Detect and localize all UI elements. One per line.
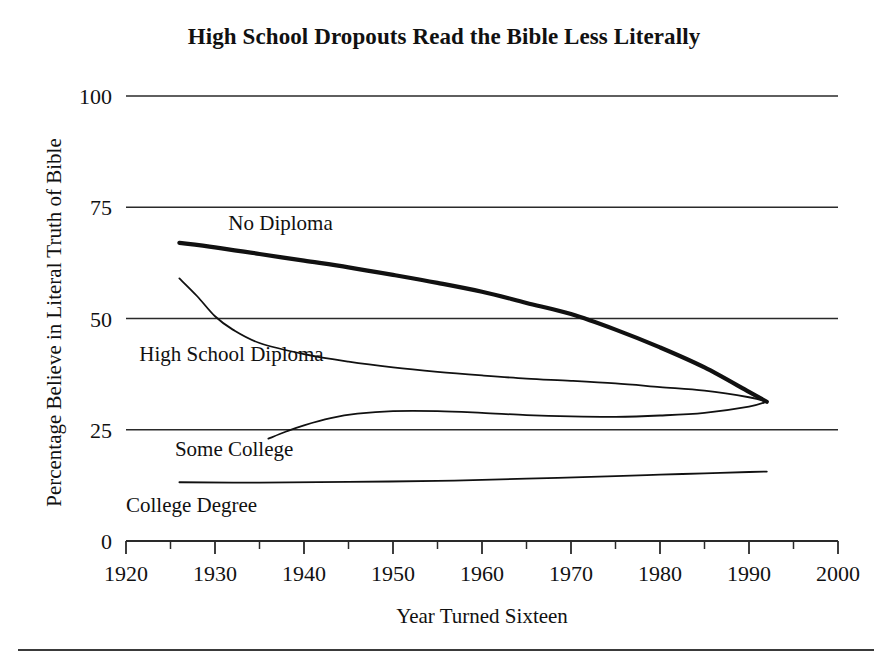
series-label-high-school-diploma: High School Diploma — [139, 342, 324, 366]
y-axis-tick-labels: 0255075100 — [79, 84, 112, 554]
series-line-some-college — [268, 402, 766, 439]
series-label-some-college: Some College — [175, 437, 293, 461]
gridlines — [126, 96, 838, 541]
x-axis-tick-labels: 192019301940195019601970198019902000 — [104, 561, 860, 586]
y-tick-label-50: 50 — [90, 307, 112, 332]
footer-divider — [18, 649, 874, 651]
series-label-college-degree: College Degree — [126, 493, 257, 517]
x-tick-label-1970: 1970 — [549, 561, 593, 586]
chart-plot-area: 0255075100 19201930194019501960197019801… — [0, 0, 888, 669]
x-tick-label-1960: 1960 — [460, 561, 504, 586]
x-tick-label-1990: 1990 — [727, 561, 771, 586]
x-tick-label-1930: 1930 — [193, 561, 237, 586]
x-tick-label-2000: 2000 — [816, 561, 860, 586]
x-axis-ticks — [126, 541, 838, 554]
series-label-no-diploma: No Diploma — [228, 211, 333, 235]
series-annotations: No DiplomaHigh School DiplomaSome Colleg… — [126, 211, 333, 518]
chart-page: High School Dropouts Read the Bible Less… — [0, 0, 888, 669]
series-line-college-degree — [179, 472, 766, 483]
series-line-high-school-diploma — [179, 278, 766, 401]
x-tick-label-1920: 1920 — [104, 561, 148, 586]
y-tick-label-75: 75 — [90, 195, 112, 220]
x-tick-label-1950: 1950 — [371, 561, 415, 586]
series-line-no-diploma — [179, 243, 766, 402]
y-tick-label-100: 100 — [79, 84, 112, 109]
y-tick-label-0: 0 — [101, 529, 112, 554]
x-tick-label-1940: 1940 — [282, 561, 326, 586]
y-tick-label-25: 25 — [90, 418, 112, 443]
x-tick-label-1980: 1980 — [638, 561, 682, 586]
